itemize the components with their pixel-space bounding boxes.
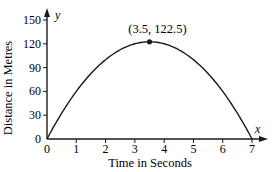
x-tick-label: 3 (132, 142, 138, 156)
y-tick-label: 0 (35, 132, 41, 146)
x-tick-label: 0 (44, 142, 50, 156)
x-tick-label: 7 (249, 142, 255, 156)
y-ticks: 0306090120150 (23, 13, 47, 146)
x-tick-label: 1 (73, 142, 79, 156)
x-tick-label: 4 (161, 142, 167, 156)
x-tick-label: 5 (190, 142, 196, 156)
y-axis-symbol: y (54, 8, 61, 22)
x-ticks: 01234567 (44, 139, 255, 156)
vertex-point (147, 39, 152, 44)
chart: 01234567 0306090120150 (3.5, 122.5) x y … (0, 0, 274, 172)
y-axis-arrow-icon (44, 8, 50, 17)
x-tick-label: 6 (220, 142, 226, 156)
distance-curve (47, 42, 252, 139)
y-tick-label: 30 (29, 108, 41, 122)
y-tick-label: 90 (29, 61, 41, 75)
x-axis-symbol: x (254, 122, 261, 136)
y-tick-label: 150 (23, 13, 41, 27)
vertex-annotation: (3.5, 122.5) (128, 22, 186, 36)
y-tick-label: 120 (23, 37, 41, 51)
x-axis-arrow-icon (259, 136, 268, 142)
x-tick-label: 2 (103, 142, 109, 156)
y-axis-label: Distance in Metres (1, 41, 15, 136)
x-axis-label: Time in Seconds (108, 156, 192, 170)
y-tick-label: 60 (29, 84, 41, 98)
